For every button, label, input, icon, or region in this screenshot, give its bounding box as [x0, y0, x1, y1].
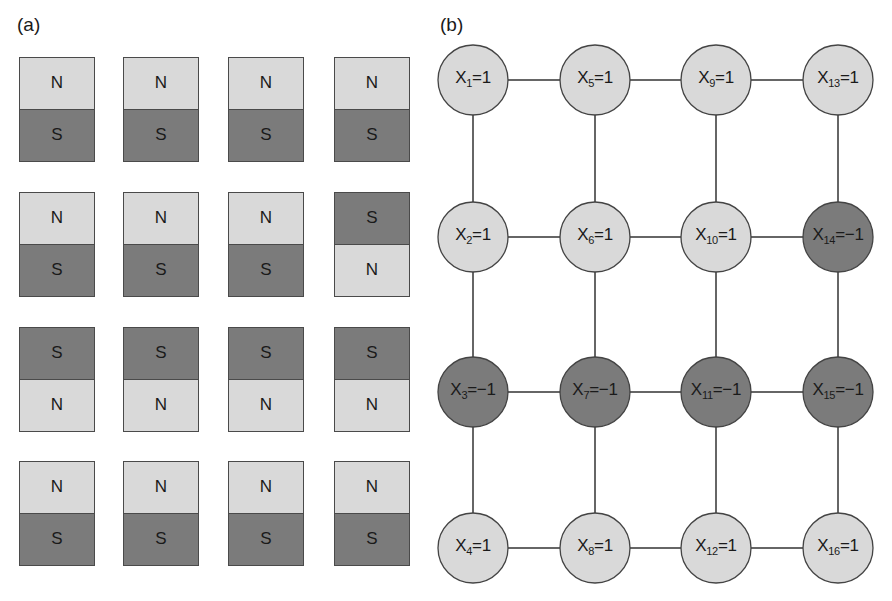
node-label: X13=1 [798, 66, 878, 90]
node-label: X6=1 [555, 223, 635, 247]
ising-lattice [0, 0, 892, 601]
node-label: X9=1 [676, 66, 756, 90]
node-label: X12=1 [676, 534, 756, 558]
node-label: X16=1 [798, 534, 878, 558]
node-label: X10=1 [676, 223, 756, 247]
node-label: X15=−1 [798, 378, 878, 402]
node-label: X2=1 [433, 223, 513, 247]
node-label: X4=1 [433, 534, 513, 558]
node-label: X14=−1 [798, 223, 878, 247]
node-label: X3=−1 [433, 378, 513, 402]
node-label: X1=1 [433, 66, 513, 90]
node-label: X5=1 [555, 66, 635, 90]
node-label: X11=−1 [676, 378, 756, 402]
node-label: X8=1 [555, 534, 635, 558]
node-label: X7=−1 [555, 378, 635, 402]
